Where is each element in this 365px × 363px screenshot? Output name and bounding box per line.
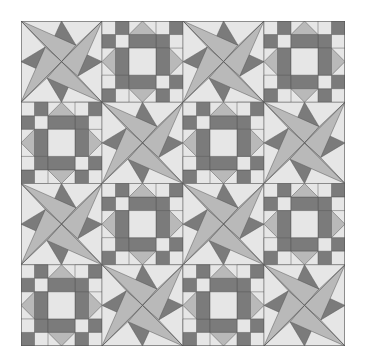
ninepatch-block	[21, 265, 102, 346]
ninepatch-block	[183, 102, 264, 183]
star-block	[102, 102, 183, 183]
star-block	[21, 184, 102, 265]
ninepatch-block	[102, 184, 183, 265]
ninepatch-block	[264, 184, 345, 265]
star-block	[264, 265, 345, 346]
ninepatch-block	[102, 21, 183, 102]
star-block	[183, 21, 264, 102]
ninepatch-block	[21, 102, 102, 183]
star-block	[21, 21, 102, 102]
star-block	[183, 184, 264, 265]
star-block	[102, 265, 183, 346]
quilt	[21, 21, 345, 346]
ninepatch-block	[264, 21, 345, 102]
star-block	[264, 102, 345, 183]
quilt-pattern	[21, 21, 345, 346]
ninepatch-block	[183, 265, 264, 346]
